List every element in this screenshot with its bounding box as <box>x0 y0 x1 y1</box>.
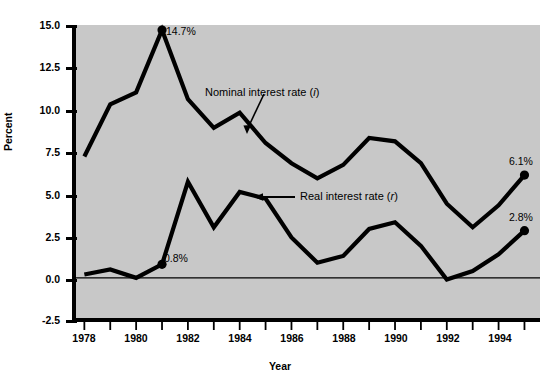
chart-plot-svg <box>0 0 560 386</box>
real-annotation-symbol: r <box>391 190 395 202</box>
data-point-markers <box>157 25 529 269</box>
point-label-real-1995: 2.8% <box>509 211 533 223</box>
point-label-real-1981: 0.8% <box>164 252 188 264</box>
x-axis-tick-group <box>84 322 524 330</box>
real-annotation-text: Real interest rate <box>300 190 384 202</box>
nominal-annotation-text: Nominal interest rate <box>205 86 307 98</box>
real-annotation-arrow <box>254 193 295 201</box>
real-annotation-label: Real interest rate (r) <box>300 190 398 202</box>
interest-rate-line-chart: 15.0 12.5 10.0 7.5 5.0 2.5 0.0 -2.5 Perc… <box>0 0 560 386</box>
nominal-annotation-label: Nominal interest rate (i) <box>205 86 319 98</box>
point-label-nominal-1981: 14.7% <box>166 25 196 37</box>
nominal-annotation-symbol: i <box>313 86 315 98</box>
point-label-nominal-1995: 6.1% <box>509 155 533 167</box>
